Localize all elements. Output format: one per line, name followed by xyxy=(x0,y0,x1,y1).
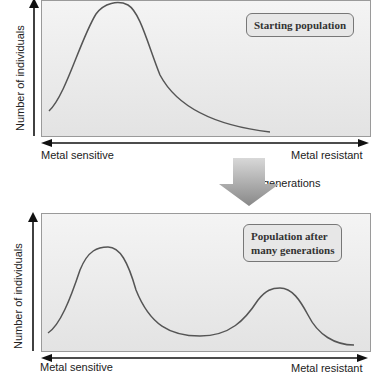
down-arrow-icon xyxy=(219,158,279,206)
top-y-axis-arrow-icon xyxy=(29,0,39,136)
top-distribution-curve xyxy=(49,3,270,132)
top-x-axis-double-arrow-icon xyxy=(41,139,369,147)
bottom-distribution-curve xyxy=(48,247,354,345)
bottom-y-axis-arrow-icon xyxy=(28,212,38,351)
bottom-x-axis-double-arrow-icon xyxy=(41,354,368,362)
